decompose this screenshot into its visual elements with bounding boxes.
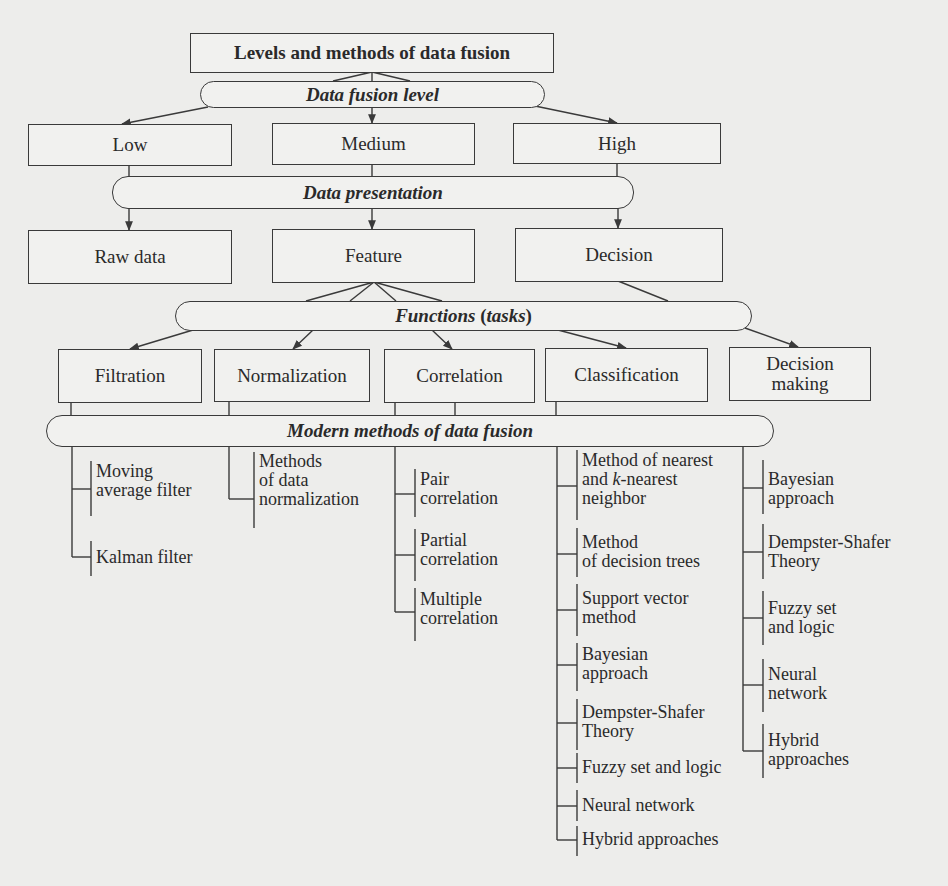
method-hybrid-decision: Hybrid approaches — [768, 731, 849, 769]
functions-label: Functions — [395, 305, 475, 327]
method-pair-correlation: Pair correlation — [420, 470, 498, 508]
level-high: High — [513, 123, 721, 164]
leaf-text: and — [582, 469, 613, 489]
leaf-line: approaches — [768, 750, 849, 769]
leaf-line: normalization — [259, 490, 359, 509]
method-dempster-shafer-classification: Dempster-Shafer Theory — [582, 703, 705, 741]
leaf-line: average filter — [96, 481, 191, 500]
leaf-line: and k-nearest — [582, 470, 713, 489]
leaf-line: approach — [768, 489, 834, 508]
method-data-normalization: Methods of data normalization — [259, 452, 359, 509]
diagram-title: Levels and methods of data fusion — [190, 33, 554, 73]
method-multiple-correlation: Multiple correlation — [420, 590, 498, 628]
presentation-raw-data: Raw data — [28, 230, 232, 284]
diagram-title-text: Levels and methods of data fusion — [234, 43, 510, 63]
method-dempster-shafer-decision: Dempster-Shafer Theory — [768, 533, 891, 571]
paren-close: ) — [526, 305, 532, 327]
leaf-line: Hybrid approaches — [582, 830, 718, 849]
tasks-label: tasks — [486, 305, 525, 327]
leaf-line: and logic — [768, 618, 836, 637]
leaf-line: approach — [582, 664, 648, 683]
leaf-line: Support vector — [582, 589, 688, 608]
leaf-line: Method — [582, 533, 700, 552]
feature-label: Feature — [345, 246, 402, 266]
leaf-line: Partial — [420, 531, 498, 550]
method-bayesian-classification: Bayesian approach — [582, 645, 648, 683]
presentation-feature: Feature — [272, 229, 475, 283]
method-bayesian-decision: Bayesian approach — [768, 470, 834, 508]
leaf-line: Dempster-Shafer — [768, 533, 891, 552]
leaf-line: Fuzzy set — [768, 599, 836, 618]
stage-label: Modern methods of data fusion — [287, 420, 533, 442]
method-moving-average-filter: Moving average filter — [96, 462, 191, 500]
raw-data-label: Raw data — [94, 247, 165, 267]
stage-modern-methods: Modern methods of data fusion — [46, 415, 774, 447]
leaf-line: Hybrid — [768, 731, 849, 750]
leaf-line: Neural — [768, 665, 827, 684]
level-medium: Medium — [272, 123, 475, 165]
method-knn: Method of nearest and k-nearest neighbor — [582, 451, 713, 508]
leaf-line: network — [768, 684, 827, 703]
stage-label: Data fusion level — [306, 84, 439, 106]
function-filtration: Filtration — [58, 349, 202, 403]
stage-functions: Functions (tasks) — [175, 301, 752, 331]
leaf-line: Dempster-Shafer — [582, 703, 705, 722]
paren-open: ( — [475, 305, 486, 327]
leaf-line: correlation — [420, 609, 498, 628]
leaf-line: Method of nearest — [582, 451, 713, 470]
leaf-line: Multiple — [420, 590, 498, 609]
level-medium-label: Medium — [341, 134, 405, 154]
stage-label: Data presentation — [303, 182, 443, 204]
leaf-line: Pair — [420, 470, 498, 489]
filtration-label: Filtration — [95, 366, 166, 386]
leaf-line: of decision trees — [582, 552, 700, 571]
method-fuzzy-decision: Fuzzy set and logic — [768, 599, 836, 637]
classification-label: Classification — [574, 365, 678, 385]
level-low-label: Low — [113, 135, 148, 155]
leaf-line: Bayesian — [582, 645, 648, 664]
method-partial-correlation: Partial correlation — [420, 531, 498, 569]
leaf-line: of data — [259, 471, 359, 490]
presentation-decision: Decision — [515, 228, 723, 282]
method-decision-trees: Method of decision trees — [582, 533, 700, 571]
function-classification: Classification — [545, 348, 708, 402]
method-kalman-filter: Kalman filter — [96, 548, 192, 567]
level-low: Low — [28, 124, 232, 166]
leaf-line: method — [582, 608, 688, 627]
method-support-vector: Support vector method — [582, 589, 688, 627]
leaf-line: Theory — [768, 552, 891, 571]
method-neural-decision: Neural network — [768, 665, 827, 703]
method-fuzzy-classification: Fuzzy set and logic — [582, 758, 721, 777]
level-high-label: High — [598, 134, 636, 154]
method-hybrid-classification: Hybrid approaches — [582, 830, 718, 849]
function-correlation: Correlation — [384, 349, 535, 403]
leaf-line: Neural network — [582, 796, 694, 815]
decision-label: Decision — [585, 245, 653, 265]
leaf-italic-k: k — [613, 469, 621, 489]
stage-data-fusion-level: Data fusion level — [200, 81, 545, 108]
leaf-line: Kalman filter — [96, 548, 192, 567]
leaf-line: Theory — [582, 722, 705, 741]
leaf-line: Methods — [259, 452, 359, 471]
leaf-line: Bayesian — [768, 470, 834, 489]
leaf-text: -nearest — [621, 469, 678, 489]
normalization-label: Normalization — [237, 366, 347, 386]
correlation-label: Correlation — [416, 366, 503, 386]
leaf-line: neighbor — [582, 489, 713, 508]
function-normalization: Normalization — [214, 349, 370, 402]
leaf-line: Moving — [96, 462, 191, 481]
leaf-line: Fuzzy set and logic — [582, 758, 721, 777]
leaf-line: correlation — [420, 550, 498, 569]
method-neural-classification: Neural network — [582, 796, 694, 815]
leaf-line: correlation — [420, 489, 498, 508]
decision-making-label: Decision making — [752, 354, 848, 394]
function-decision-making: Decision making — [729, 347, 871, 401]
stage-data-presentation: Data presentation — [112, 176, 634, 209]
